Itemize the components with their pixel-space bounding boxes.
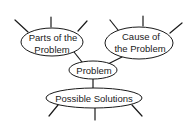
node-cause-line1: Cause of [122,31,160,42]
node-problem-label: Problem [76,65,111,76]
node-parts-line1: Parts of the [29,32,78,43]
node-parts-of-the-problem: Parts of the Problem [21,28,83,56]
concept-map-diagram: Parts of the Problem Cause of the Proble… [0,0,195,136]
node-parts-line2: Problem [34,44,69,55]
node-cause-line2: the Problem [114,43,165,54]
node-cause-of-the-problem: Cause of the Problem [105,27,173,59]
edge-cause-to-problem [108,57,122,64]
node-problem: Problem [69,61,117,79]
node-possible-solutions: Possible Solutions [46,88,142,108]
edge-parts-to-problem [74,52,82,62]
node-solutions-label: Possible Solutions [55,93,133,104]
